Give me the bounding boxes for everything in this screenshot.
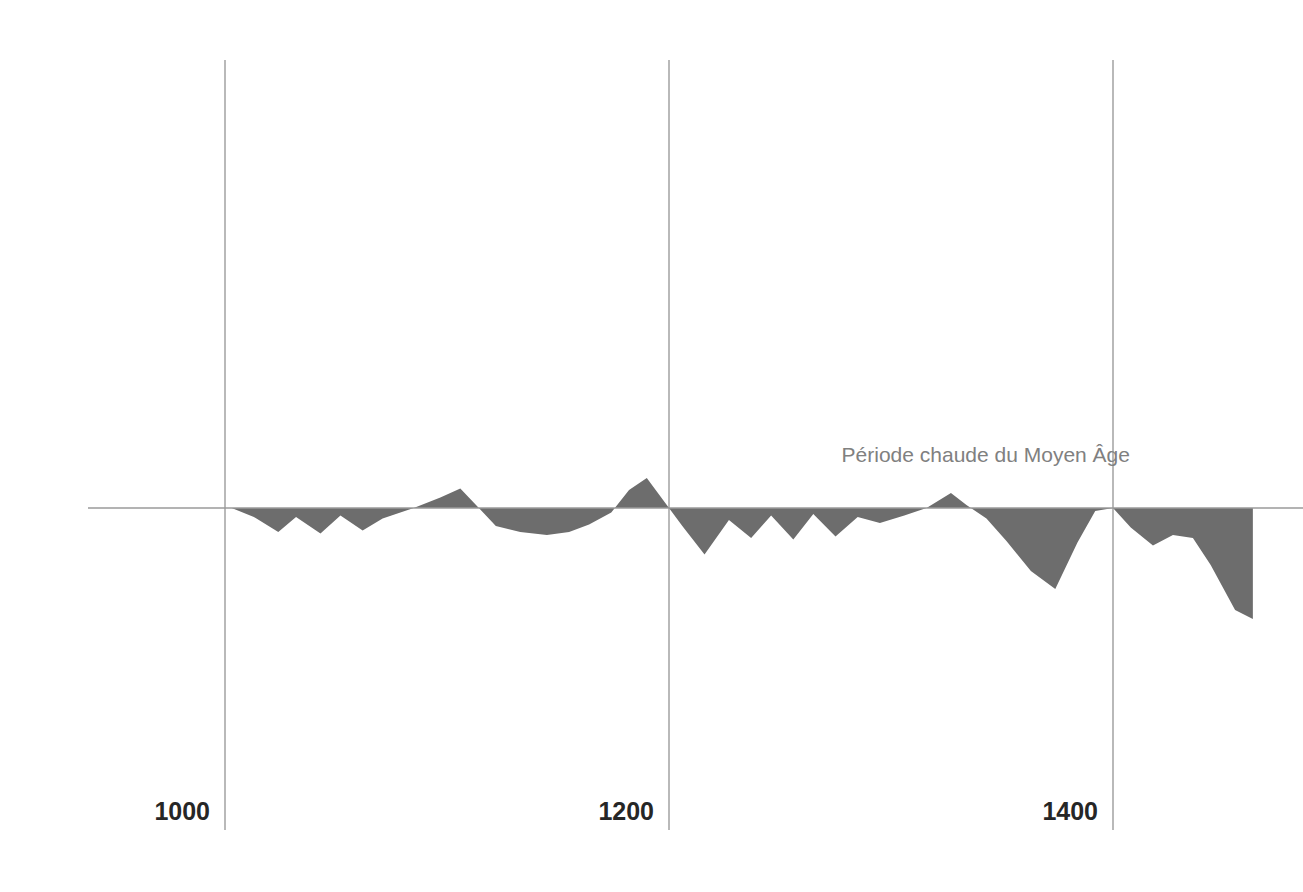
x-axis-tick-label-1200: 1200 [439, 797, 654, 826]
temperature-anomaly-chart: 1000 1200 1400 Période chaude du Moyen Â… [0, 0, 1303, 892]
medieval-warm-period-annotation: Période chaude du Moyen Âge [842, 443, 1130, 467]
x-axis-tick-label-1000: 1000 [0, 797, 210, 826]
temperature-anomaly-area [92, 478, 1253, 619]
x-axis-tick-label-1400: 1400 [883, 797, 1098, 826]
